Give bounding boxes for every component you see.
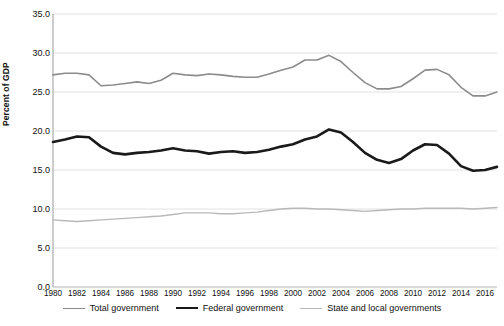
x-axis-tick-label: 2000: [284, 289, 302, 298]
legend-swatch-icon: [176, 307, 198, 309]
legend-label: State and local governments: [327, 303, 441, 313]
x-axis-tick-label: 1990: [164, 289, 182, 298]
y-axis-tick-label: 30.0: [4, 49, 50, 58]
x-axis-tick-label: 1998: [260, 289, 278, 298]
x-axis-tick-label: 1982: [68, 289, 86, 298]
legend-item[interactable]: State and local governments: [300, 303, 441, 313]
x-axis-tick-label: 1996: [236, 289, 254, 298]
x-axis-tick-label: 1980: [44, 289, 62, 298]
x-axis-tick-label: 1992: [188, 289, 206, 298]
legend-swatch-icon: [63, 308, 85, 309]
x-axis-tick-label: 2004: [332, 289, 350, 298]
y-axis-tick-labels: 0.05.010.015.020.025.030.035.0: [0, 0, 50, 326]
y-axis-tick-label: 5.0: [4, 244, 50, 253]
plot-area: [0, 0, 504, 326]
x-axis-tick-label: 1988: [140, 289, 158, 298]
x-axis-tick-label: 2014: [452, 289, 470, 298]
data-series-group: [53, 55, 497, 221]
x-axis-tick-label: 2006: [356, 289, 374, 298]
series-line: [53, 55, 497, 96]
legend-label: Federal government: [203, 303, 284, 313]
x-axis-tick-label: 1994: [212, 289, 230, 298]
legend-item[interactable]: Federal government: [176, 303, 284, 313]
x-axis-tick-label: 2002: [308, 289, 326, 298]
y-axis-tick-label: 20.0: [4, 127, 50, 136]
y-axis-tick-label: 35.0: [4, 10, 50, 19]
x-axis-tick-label: 2010: [404, 289, 422, 298]
x-axis-tick-label: 2008: [380, 289, 398, 298]
gridlines: [53, 14, 497, 287]
chart-container: Percent of GDP 0.05.010.015.020.025.030.…: [0, 0, 504, 326]
series-line: [53, 129, 497, 170]
x-axis-tick-label: 2012: [428, 289, 446, 298]
legend-swatch-icon: [300, 308, 322, 309]
x-axis-tick-label: 1986: [116, 289, 134, 298]
y-axis-tick-label: 15.0: [4, 166, 50, 175]
legend-label: Total government: [90, 303, 159, 313]
chart-legend: Total governmentFederal governmentState …: [0, 303, 504, 313]
legend-item[interactable]: Total government: [63, 303, 159, 313]
y-axis-tick-label: 10.0: [4, 205, 50, 214]
series-line: [53, 207, 497, 221]
y-axis-tick-label: 25.0: [4, 88, 50, 97]
x-axis-tick-label: 1984: [92, 289, 110, 298]
x-axis-tick-label: 2016: [476, 289, 494, 298]
